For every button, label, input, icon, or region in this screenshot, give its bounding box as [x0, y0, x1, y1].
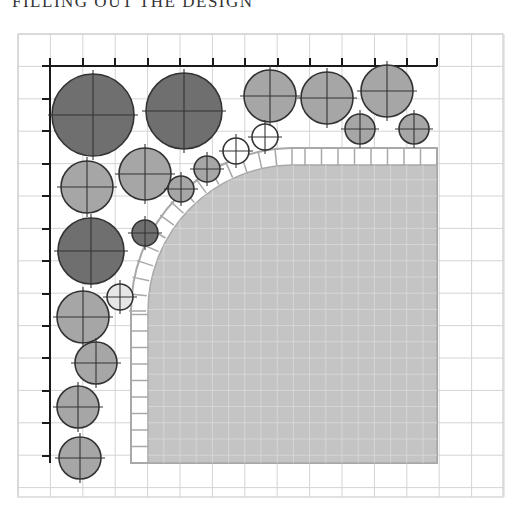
plant-symbol: [48, 70, 138, 160]
plant-symbol: [53, 382, 103, 432]
plant-symbol: [115, 144, 175, 204]
plant-symbol: [53, 287, 113, 347]
plant-symbol: [71, 338, 121, 388]
patio-surface: [148, 165, 437, 463]
plant-symbol: [142, 69, 226, 153]
plant-symbol: [395, 110, 433, 148]
garden-plan-diagram: [0, 0, 522, 507]
plant-symbol: [57, 157, 117, 217]
plant-symbol: [55, 433, 105, 483]
plant-symbol: [357, 61, 417, 121]
plant-symbol: [240, 66, 300, 126]
plant-symbol: [54, 214, 128, 288]
